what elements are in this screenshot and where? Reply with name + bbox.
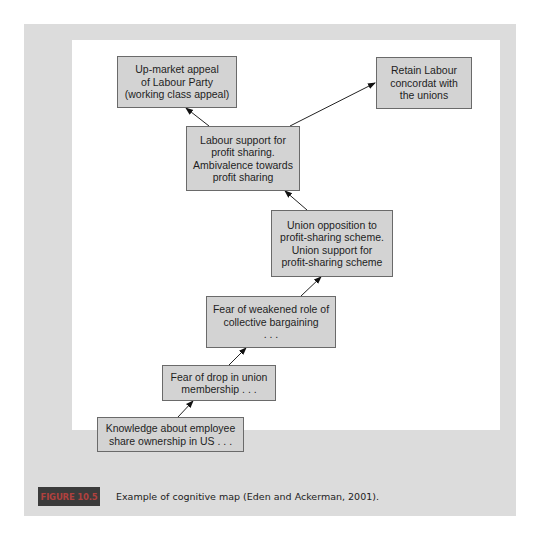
node-fear-drop-membership: Fear of drop in union membership . . . xyxy=(162,365,276,401)
edge-n5-n4 xyxy=(301,277,321,296)
edge-n7-n6 xyxy=(178,401,193,417)
edge-n3-n1 xyxy=(186,108,209,126)
node-fear-weakened-bargaining: Fear of weakened role of collective barg… xyxy=(206,296,336,348)
node-up-market-appeal: Up-market appeal of Labour Party (workin… xyxy=(117,56,237,108)
edge-n6-n5 xyxy=(229,348,246,365)
node-union-opposition-support: Union opposition to profit-sharing schem… xyxy=(271,210,393,277)
edge-n3-n2 xyxy=(290,83,375,126)
node-knowledge-employee-ownership: Knowledge about employee share ownership… xyxy=(97,417,244,452)
node-labour-support-profit-sharing: Labour support for profit sharing. Ambiv… xyxy=(186,126,300,191)
node-retain-labour-concordat: Retain Labour concordat with the unions xyxy=(376,57,472,109)
figure-caption: Example of cognitive map (Eden and Acker… xyxy=(116,489,379,504)
edge-n4-n3 xyxy=(285,191,307,210)
figure-label: FIGURE 10.5 xyxy=(38,487,100,506)
